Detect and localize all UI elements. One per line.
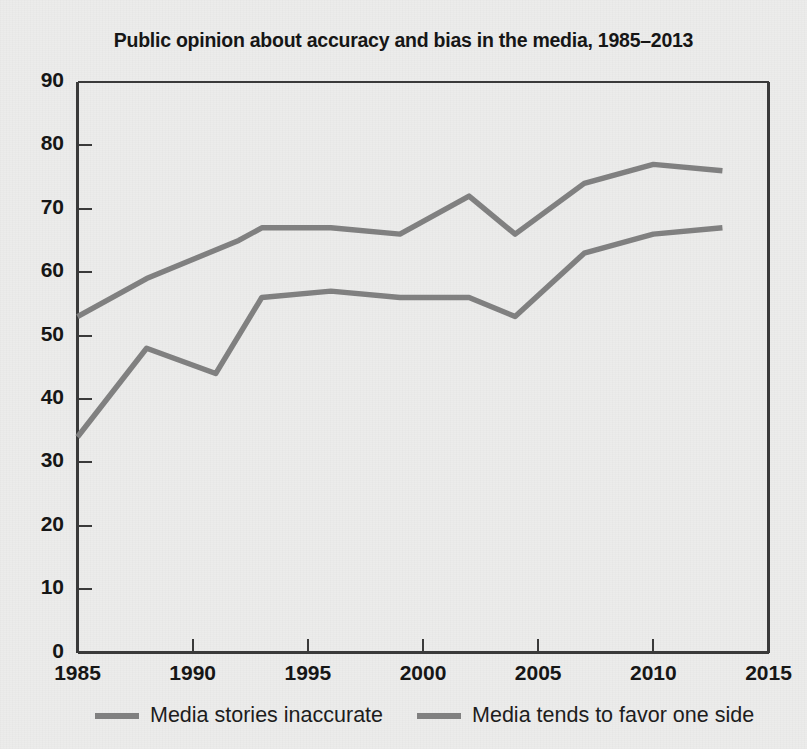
x-tick-label: 2010	[608, 661, 698, 685]
legend-item[interactable]: Media stories inaccurate	[95, 703, 383, 728]
y-tick-label: 70	[12, 195, 64, 219]
legend-label: Media stories inaccurate	[150, 703, 383, 728]
y-tick-label: 30	[12, 448, 64, 472]
y-tick-label: 50	[12, 322, 64, 346]
x-tick-label: 1990	[148, 661, 238, 685]
x-tick-marks	[193, 639, 654, 653]
x-tick-label: 1985	[33, 661, 123, 685]
legend-color-swatch	[95, 713, 139, 719]
plot-area	[0, 0, 807, 749]
y-tick-label: 90	[12, 68, 64, 92]
x-tick-label: 2015	[724, 661, 807, 685]
x-tick-label: 1995	[263, 661, 353, 685]
y-tick-label: 10	[12, 575, 64, 599]
x-tick-label: 2000	[378, 661, 468, 685]
x-tick-label: 2005	[493, 661, 583, 685]
y-tick-label: 40	[12, 385, 64, 409]
legend-label: Media tends to favor one side	[472, 703, 754, 728]
y-tick-label: 80	[12, 131, 64, 155]
y-tick-label: 0	[12, 639, 64, 663]
y-tick-marks	[78, 82, 92, 653]
series-line-1	[78, 228, 723, 437]
y-tick-label: 60	[12, 258, 64, 282]
chart-figure: Public opinion about accuracy and bias i…	[0, 0, 807, 749]
legend-color-swatch	[417, 713, 461, 719]
data-series-group	[78, 164, 723, 437]
chart-legend: Media stories inaccurateMedia tends to f…	[95, 703, 754, 728]
legend-item[interactable]: Media tends to favor one side	[417, 703, 754, 728]
y-tick-label: 20	[12, 512, 64, 536]
